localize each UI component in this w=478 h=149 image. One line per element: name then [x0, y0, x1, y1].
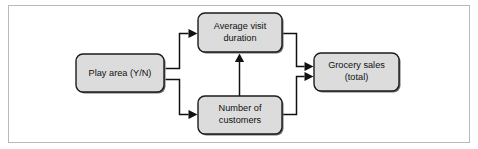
node-play-area[interactable]: Play area (Y/N)	[76, 54, 166, 94]
edge-play-area-to-number-of-customers	[166, 80, 198, 120]
node-number-of-customers-label-line1: Number of	[219, 103, 262, 113]
edge-number-of-customers-to-grocery-sales	[283, 72, 314, 115]
node-number-of-customers[interactable]: Number of customers	[198, 96, 284, 136]
node-average-visit-duration-label-line1: Average visit	[214, 21, 267, 31]
node-average-visit-duration[interactable]: Average visit duration	[198, 13, 284, 54]
node-number-of-customers-label-line2: customers	[219, 115, 262, 125]
node-grocery-sales-label-line2: (total)	[345, 72, 369, 82]
edge-play-area-to-average-visit-duration	[166, 29, 198, 69]
flowchart-svg: Play area (Y/N) Average visit duration N…	[0, 0, 478, 149]
node-grocery-sales[interactable]: Grocery sales (total)	[314, 53, 401, 93]
node-average-visit-duration-label-line2: duration	[223, 33, 256, 43]
node-play-area-label-line1: Play area (Y/N)	[89, 68, 152, 78]
node-grocery-sales-label-line1: Grocery sales	[328, 60, 385, 70]
edge-average-visit-duration-to-grocery-sales	[283, 34, 314, 72]
diagram-canvas: Play area (Y/N) Average visit duration N…	[0, 0, 478, 149]
edge-number-of-customers-to-average-visit-duration	[235, 54, 244, 98]
